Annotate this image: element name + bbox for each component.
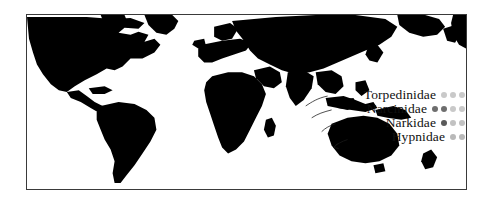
dot-dark (441, 120, 447, 126)
legend-label-torpedinidae: Torpedinidae (364, 88, 441, 102)
distribution-map-figure: Torpedinidae Narcinidae Narkidae (0, 0, 490, 201)
legend-label-hypnidae: Hypnidae (392, 130, 450, 144)
legend: Torpedinidae Narcinidae Narkidae (300, 88, 465, 144)
legend-dots-hypnidae (450, 134, 465, 140)
dot-light (459, 120, 465, 126)
legend-row-hypnidae: Hypnidae (300, 130, 465, 144)
dot-light (450, 106, 456, 112)
legend-dots-narkidae (441, 120, 465, 126)
legend-row-narkidae: Narkidae (300, 116, 465, 130)
dot-light (450, 92, 456, 98)
dot-light (459, 92, 465, 98)
legend-row-narcinidae: Narcinidae (300, 102, 465, 116)
legend-label-narcinidae: Narcinidae (367, 102, 432, 116)
dot-dark (432, 106, 438, 112)
dot-dark (441, 106, 447, 112)
legend-dots-torpedinidae (441, 92, 465, 98)
legend-row-torpedinidae: Torpedinidae (300, 88, 465, 102)
dot-light (450, 134, 456, 140)
dot-light (441, 92, 447, 98)
dot-light (450, 120, 456, 126)
dot-light (459, 134, 465, 140)
legend-label-narkidae: Narkidae (386, 116, 441, 130)
dot-light (459, 106, 465, 112)
legend-dots-narcinidae (432, 106, 465, 112)
